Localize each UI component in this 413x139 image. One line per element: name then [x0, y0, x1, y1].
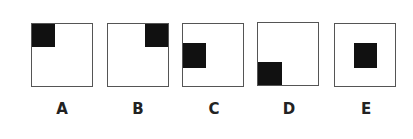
option-b-black-square	[145, 24, 168, 47]
option-a-panel	[31, 23, 93, 87]
option-e-black-square	[354, 43, 377, 68]
option-c-label: C	[194, 101, 234, 117]
option-d-label: D	[269, 101, 309, 117]
option-b-panel	[107, 23, 169, 87]
option-d-panel	[257, 22, 319, 86]
option-b-label: B	[118, 101, 158, 117]
option-e-panel	[334, 23, 396, 87]
option-a-label: A	[42, 101, 82, 117]
option-d-black-square	[258, 62, 282, 85]
option-e-label: E	[346, 101, 386, 117]
option-a-black-square	[32, 24, 55, 47]
option-c-panel	[182, 23, 244, 87]
option-c-black-square	[183, 43, 206, 68]
